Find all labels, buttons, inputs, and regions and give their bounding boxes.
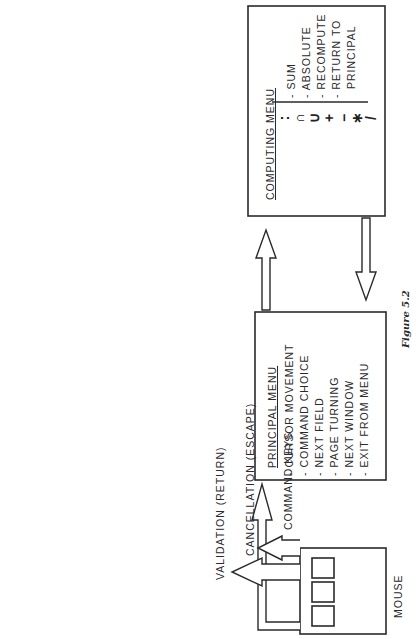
principal-item-page-turning[interactable]: - PAGE TURNING <box>327 344 342 477</box>
computing-item-return-to-principal-cont: PRINCIPAL <box>344 14 359 99</box>
computing-item-return-to-principal[interactable]: - RETURN TO <box>329 14 344 99</box>
principal-item-next-window[interactable]: - NEXT WINDOW <box>342 344 357 477</box>
mouse-button-2 <box>312 582 334 602</box>
symbol-cup: ∪ <box>306 111 322 125</box>
cancellation-escape-text: CANCELLATION (ESCAPE) <box>244 403 256 556</box>
computing-menu-title-text: COMPUTING MENU <box>264 88 276 200</box>
figure-caption: Figure 5.2 <box>400 290 411 348</box>
arrow-computing-to-principal <box>356 218 376 300</box>
label-cancellation: CANCELLATION (ESCAPE) <box>244 403 256 556</box>
mouse-label: MOUSE <box>392 574 404 618</box>
label-command-keys: COMMAND KEYS <box>282 432 294 530</box>
command-keys-text: COMMAND KEYS <box>282 432 294 530</box>
symbol-colon: : <box>276 111 292 125</box>
principal-item-next-field[interactable]: - NEXT FIELD <box>312 344 327 477</box>
computing-item-recompute[interactable]: - RECOMPUTE <box>314 14 329 99</box>
principal-menu-title-text: PRINCIPAL MENU <box>266 366 278 468</box>
principal-item-exit-from-menu[interactable]: - EXIT FROM MENU <box>357 344 372 477</box>
symbol-slash: / <box>363 111 379 125</box>
arrow-principal-to-computing <box>256 230 276 310</box>
symbol-cap: ∩ <box>291 111 307 125</box>
computing-menu-title: COMPUTING MENU <box>264 88 276 200</box>
symbol-plus: + <box>321 111 337 125</box>
principal-menu-title: PRINCIPAL MENU <box>266 366 278 468</box>
figure-caption-text: Figure 5.2 <box>400 290 411 348</box>
mouse-label-text: MOUSE <box>392 574 404 618</box>
computing-item-sum[interactable]: - SUM <box>284 14 299 99</box>
mouse-button-3 <box>312 606 334 626</box>
computing-menu-labels: - SUM - ABSOLUTE - RECOMPUTE - RETURN TO… <box>284 14 359 99</box>
principal-item-command-choice[interactable]: - COMMAND CHOICE <box>297 344 312 477</box>
principal-menu-items: - CURSOR MOVEMENT - COMMAND CHOICE - NEX… <box>282 344 372 477</box>
label-validation: VALIDATION (RETURN) <box>214 446 226 580</box>
mouse-box <box>300 548 386 634</box>
computing-item-absolute[interactable]: - ABSOLUTE <box>299 14 314 99</box>
mouse-button-1 <box>312 558 334 578</box>
validation-return-text: VALIDATION (RETURN) <box>214 446 226 580</box>
